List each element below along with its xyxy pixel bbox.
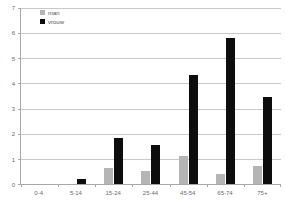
- x-axis-tick-label: 15-24: [95, 187, 132, 199]
- y-axis-tick-label: 1: [12, 157, 15, 163]
- x-axis-tick-label: 45-54: [169, 187, 206, 199]
- bar-vrouw-15-24: [114, 138, 123, 185]
- bar-chart: 01234567 0-45-1415-2425-4445-5465-7475+ …: [0, 0, 285, 202]
- legend-entry-man[interactable]: man: [40, 9, 64, 16]
- y-axis-tick-label: 6: [12, 30, 15, 36]
- bar-man-25-44: [141, 171, 150, 184]
- bar-vrouw-65-74: [226, 38, 235, 184]
- bars-layer: [21, 8, 281, 184]
- y-axis-tick-label: 5: [12, 56, 15, 62]
- legend-label: vrouw: [48, 19, 64, 25]
- bar-group: [95, 8, 132, 184]
- bar-man-45-54: [179, 156, 188, 184]
- x-axis-tick-label: 65-74: [206, 187, 243, 199]
- bar-vrouw-25-44: [151, 145, 160, 184]
- y-axis-labels: 01234567: [0, 8, 18, 185]
- x-axis-tick-label: 0-4: [20, 187, 57, 199]
- y-axis-tick-label: 7: [12, 5, 15, 11]
- y-axis-tick-label: 4: [12, 81, 15, 87]
- bar-vrouw-75+: [263, 97, 272, 184]
- bar-group: [244, 8, 281, 184]
- plot-area: [20, 8, 281, 185]
- legend-swatch-icon: [40, 19, 45, 24]
- bar-vrouw-45-54: [189, 75, 198, 184]
- legend-entry-vrouw[interactable]: vrouw: [40, 18, 64, 25]
- legend-swatch-icon: [40, 10, 45, 15]
- x-axis-tick-label: 25-44: [132, 187, 169, 199]
- bar-group: [132, 8, 169, 184]
- y-axis-tick-label: 2: [12, 131, 15, 137]
- x-axis-tick-label: 75+: [244, 187, 281, 199]
- y-axis-tick-label: 0: [12, 182, 15, 188]
- legend-label: man: [48, 10, 60, 16]
- x-axis-tick-label: 5-14: [57, 187, 94, 199]
- bar-man-65-74: [216, 174, 225, 184]
- bar-group: [58, 8, 95, 184]
- bar-group: [207, 8, 244, 184]
- bar-group: [21, 8, 58, 184]
- bar-man-15-24: [104, 168, 113, 184]
- bar-man-75+: [253, 166, 262, 184]
- bar-group: [170, 8, 207, 184]
- y-axis-tick-label: 3: [12, 106, 15, 112]
- x-axis-labels: 0-45-1415-2425-4445-5465-7475+: [20, 187, 281, 199]
- chart-legend: manvrouw: [40, 9, 64, 25]
